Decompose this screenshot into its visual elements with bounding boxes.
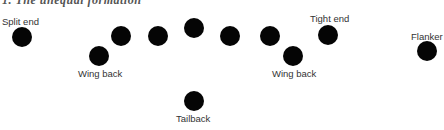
player-wing-back-right-marker [283, 46, 303, 66]
player-tight-end-marker [318, 25, 338, 45]
player-split-end-marker [12, 27, 32, 47]
player-split-end-label: Split end [2, 16, 39, 27]
player-tight-end-label: Tight end [310, 13, 349, 24]
player-lineman-5-marker [260, 26, 280, 46]
player-wing-back-right-label: Wing back [272, 68, 316, 79]
player-lineman-2-marker [148, 26, 168, 46]
player-lineman-4-marker [220, 26, 240, 46]
player-flanker-marker [417, 41, 437, 61]
player-wing-back-left-label: Wing back [78, 68, 122, 79]
player-tailback-label: Tailback [176, 113, 210, 124]
player-flanker-label: Flanker [411, 31, 443, 42]
player-wing-back-left-marker [89, 46, 109, 66]
player-tailback-marker [184, 91, 204, 111]
player-center-marker [184, 18, 204, 38]
diagram-title: 1. The unequal formation [2, 0, 141, 8]
player-lineman-1-marker [111, 26, 131, 46]
